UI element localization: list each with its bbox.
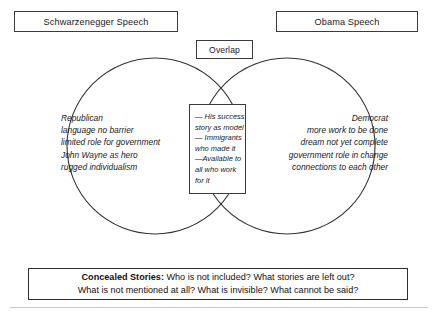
concealed-stories-box: Concealed Stories: Who is not included? … — [28, 268, 408, 300]
left-speech-title-text: Schwarzenegger Speech — [44, 17, 149, 27]
concealed-stories-question-1: Who is not included? What stories are le… — [164, 272, 355, 282]
right-circle-content-text: Democrat more work to be done dream not … — [252, 112, 388, 173]
left-circle-content-text: Republican language no barrier limited r… — [61, 112, 187, 173]
right-speech-title-box: Obama Speech — [276, 11, 418, 32]
right-speech-title-text: Obama Speech — [314, 17, 379, 27]
concealed-stories-line-1: Concealed Stories: Who is not included? … — [82, 271, 355, 284]
left-speech-title-box: Schwarzenegger Speech — [14, 11, 178, 32]
concealed-stories-lead-label: Concealed Stories: — [82, 272, 164, 282]
concealed-stories-line-2: What is not mentioned at all? What is in… — [78, 284, 359, 297]
overlap-content-text: — His success story as model — Immigrant… — [195, 112, 245, 186]
overlap-title-box: Overlap — [196, 40, 253, 59]
overlap-content-box: — His success story as model — Immigrant… — [189, 104, 246, 194]
overlap-title-text: Overlap — [209, 45, 240, 55]
